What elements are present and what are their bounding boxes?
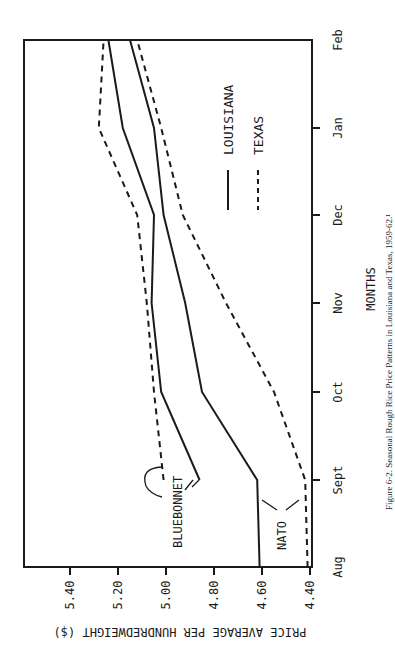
y-tick-label: 5.40 — [63, 581, 77, 610]
x-tick-label: Nov — [331, 292, 345, 314]
x-tick-label: Sept — [331, 466, 345, 495]
y-tick-label: 5.00 — [159, 581, 173, 610]
series-louisiana-bluebonnet — [108, 40, 199, 480]
y-tick-label: 4.60 — [255, 581, 269, 610]
annotation-nato: NATO — [275, 521, 289, 550]
axis-ticks: AugSeptOctNovDecJanFeb4.404.604.805.005.… — [63, 29, 345, 609]
x-tick-label: Oct — [331, 381, 345, 403]
legend-label-texas: TEXAS — [251, 116, 266, 155]
rice-price-chart: AugSeptOctNovDecJanFeb4.404.604.805.005.… — [0, 0, 395, 667]
x-tick-label: Feb — [331, 29, 345, 51]
annotations: BLUEBONNET NATO — [145, 467, 299, 550]
legend-label-louisiana: LOUISIANA — [221, 84, 236, 155]
y-tick-label: 4.40 — [303, 581, 317, 610]
figure-caption: Figure 6-2. Seasonal Rough Rice Price Pa… — [384, 214, 394, 510]
series-louisiana-nato — [130, 40, 260, 567]
x-axis-title: MONTHS — [364, 267, 378, 310]
x-tick-label: Aug — [331, 556, 345, 578]
nato-bracket — [262, 500, 299, 510]
series-lines — [99, 40, 308, 567]
annotation-bluebonnet: BLUEBONNET — [171, 476, 185, 548]
x-tick-label: Dec — [331, 204, 345, 226]
legend: LOUISIANA TEXAS — [221, 84, 266, 210]
x-tick-label: Jan — [331, 117, 345, 139]
y-axis-title: PRICE AVERAGE PER HUNDREDWEIGHT ($) — [54, 625, 307, 639]
plot-frame — [24, 40, 312, 567]
y-tick-label: 5.20 — [111, 581, 125, 610]
series-texas-bluebonnet — [99, 40, 164, 480]
y-tick-label: 4.80 — [207, 581, 221, 610]
